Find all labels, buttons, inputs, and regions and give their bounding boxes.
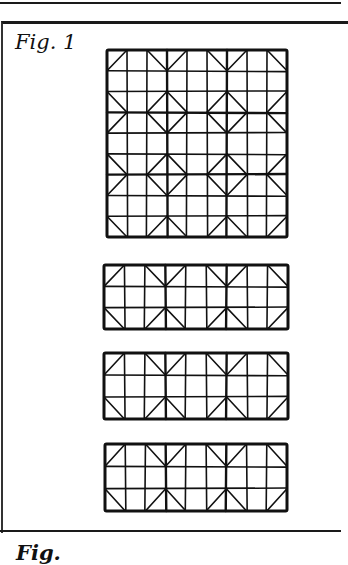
top-rule bbox=[0, 2, 341, 4]
figure-label: Fig. 1 bbox=[15, 30, 76, 54]
quilt-strip-1 bbox=[104, 265, 288, 329]
quilt-strip-3 bbox=[105, 444, 287, 511]
bottom-rule bbox=[0, 530, 341, 532]
quilt-grid-large bbox=[107, 50, 287, 237]
quilt-strip-2 bbox=[104, 353, 288, 419]
next-figure-label: Fig. bbox=[16, 540, 61, 565]
